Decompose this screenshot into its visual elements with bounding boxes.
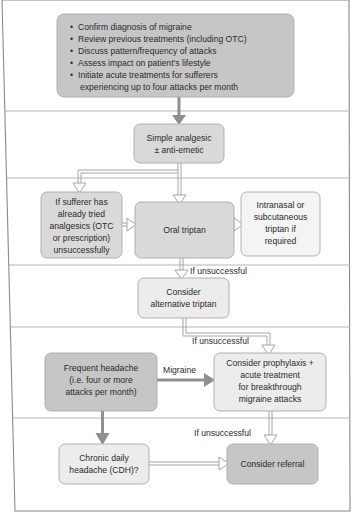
prophylaxis-box: Consider prophylaxis + acute treatment f… — [214, 353, 326, 411]
svg-text:required: required — [265, 236, 297, 246]
svg-text:attacks per month): attacks per month) — [65, 387, 136, 397]
migraine-treatment-flowchart: If unsuccessful If unsuccessful Migraine… — [0, 0, 364, 526]
alternative-triptan-box: Consider alternative triptan — [138, 278, 229, 318]
assessment-bullet-4: Assess impact on patient’s lifestyle — [78, 58, 211, 68]
svg-text:Consider: Consider — [166, 287, 201, 297]
svg-text:•: • — [70, 46, 73, 56]
svg-text:triptan if: triptan if — [265, 224, 296, 234]
arrow-prophylaxis-to-referral — [264, 411, 277, 445]
cdh-box: Chronic daily headache (CDH)? — [59, 444, 149, 484]
arrow-frequent-to-cdh — [96, 411, 110, 445]
migraine-label: Migraine — [163, 365, 196, 375]
tried-analgesics-box: If sufferer has already tried analgesics… — [41, 192, 122, 258]
svg-text:acute treatment: acute treatment — [240, 370, 300, 380]
assessment-bullet-5: Initiate acute treatments for sufferers — [78, 70, 218, 80]
arrow-triptan-to-alternative — [175, 258, 188, 279]
arrow-frequent-to-prophylaxis — [157, 373, 215, 387]
frequent-headache-box: Frequent headache (i.e. four or more att… — [45, 353, 157, 411]
svg-text:•: • — [70, 58, 73, 68]
arrow-cdh-to-referral — [149, 457, 229, 470]
assessment-bullet-5-cont: experiencing up to four attacks per mont… — [80, 82, 238, 92]
svg-text:If sufferer has: If sufferer has — [55, 197, 107, 207]
if-unsuccessful-label-3: If unsuccessful — [194, 428, 251, 438]
svg-text:already tried: already tried — [58, 209, 106, 219]
svg-text:•: • — [70, 70, 73, 80]
svg-text:± anti-emetic: ± anti-emetic — [154, 145, 204, 155]
svg-text:headache (CDH)?: headache (CDH)? — [69, 465, 138, 475]
simple-analgesic-box: Simple analgesic ± anti-emetic — [134, 124, 224, 163]
svg-text:migraine attacks: migraine attacks — [239, 394, 302, 404]
svg-text:analgesics (OTC: analgesics (OTC — [50, 221, 114, 231]
arrow-tried-to-triptan — [122, 218, 136, 231]
svg-text:Consider prophylaxis +: Consider prophylaxis + — [226, 358, 314, 368]
svg-text:unsuccessfully: unsuccessfully — [54, 245, 111, 255]
intranasal-box: Intranasal or subcutaneous triptan if re… — [241, 192, 320, 256]
svg-text:Consider referral: Consider referral — [241, 459, 305, 469]
if-unsuccessful-label-1: If unsuccessful — [190, 266, 247, 276]
svg-text:•: • — [70, 34, 73, 44]
assessment-box: • Confirm diagnosis of migraine • Review… — [57, 14, 294, 97]
assessment-bullet-1: Confirm diagnosis of migraine — [78, 22, 192, 32]
referral-box: Consider referral — [227, 444, 318, 484]
svg-text:•: • — [70, 22, 73, 32]
if-unsuccessful-label-2: If unsuccessful — [192, 336, 249, 346]
svg-text:(i.e. four or more: (i.e. four or more — [69, 375, 133, 385]
svg-text:Oral triptan: Oral triptan — [163, 225, 206, 235]
svg-text:alternative triptan: alternative triptan — [151, 299, 217, 309]
svg-text:for breakthrough: for breakthrough — [238, 382, 301, 392]
svg-text:Chronic daily: Chronic daily — [79, 453, 129, 463]
assessment-bullet-3: Discuss pattern/frequency of attacks — [78, 46, 217, 56]
svg-text:Frequent headache: Frequent headache — [64, 363, 139, 373]
svg-text:or prescription): or prescription) — [53, 233, 110, 243]
svg-text:subcutaneous: subcutaneous — [254, 212, 308, 222]
svg-text:Simple analgesic: Simple analgesic — [147, 133, 213, 143]
svg-text:Intranasal or: Intranasal or — [257, 200, 305, 210]
assessment-bullet-2: Review previous treatments (including OT… — [78, 34, 247, 44]
oral-triptan-box: Oral triptan — [135, 202, 234, 258]
